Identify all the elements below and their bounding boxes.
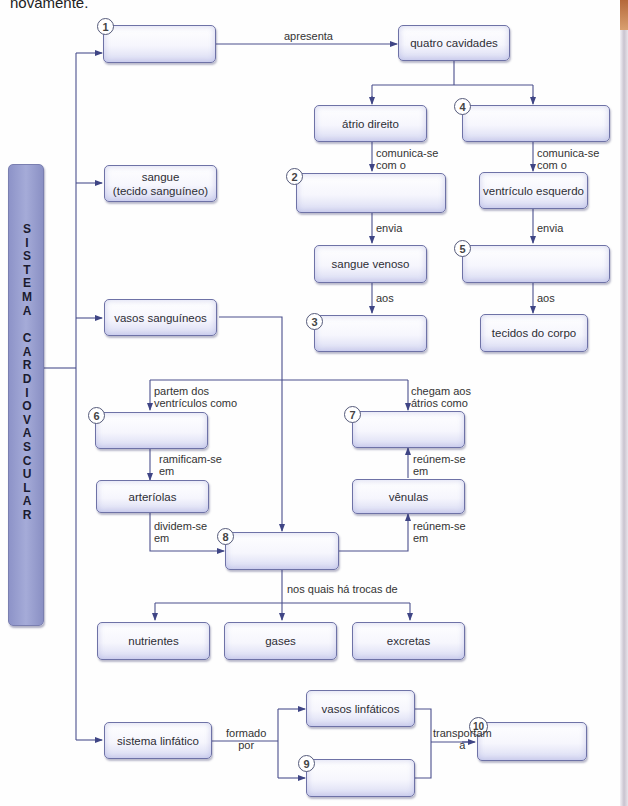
- label-ramificam: ramificam-se em: [159, 453, 222, 477]
- box-quatro-cavidades[interactable]: quatro cavidades: [398, 25, 510, 61]
- box-venulas[interactable]: vênulas: [352, 479, 465, 514]
- number-badge-5: 5: [454, 240, 471, 257]
- box-nutrientes[interactable]: nutrientes: [97, 622, 210, 660]
- box-label: nutrientes: [128, 634, 179, 648]
- quatro-split: [372, 60, 533, 103]
- box-label: átrio direito: [342, 117, 399, 131]
- number-badge-9: 9: [298, 755, 315, 772]
- side-title-line-2: C A R D I O V A S C U L A R: [9, 332, 45, 522]
- box-gases[interactable]: gases: [224, 622, 337, 660]
- blank-box-4[interactable]: [462, 105, 610, 142]
- box-atrio-direito[interactable]: átrio direito: [314, 105, 427, 142]
- box-label: arteríolas: [129, 490, 177, 504]
- blank-box-1[interactable]: [103, 25, 216, 63]
- label-apresenta: apresenta: [284, 30, 333, 42]
- blank-box-6[interactable]: [95, 412, 208, 449]
- number-badge-1: 1: [97, 18, 114, 35]
- label-dividem: dividem-se em: [154, 520, 207, 544]
- box-label: sistema linfático: [117, 734, 199, 748]
- box-sistema-linfatico[interactable]: sistema linfático: [104, 722, 212, 759]
- box-label: sangue venoso: [331, 257, 409, 271]
- vasos-to-b8: [219, 317, 282, 531]
- box-excretas[interactable]: excretas: [352, 622, 465, 660]
- blank-box-10[interactable]: [477, 722, 587, 761]
- label-partem: partem dos ventrículos como: [154, 385, 237, 409]
- label-chegam: chegam aos átrios como: [411, 385, 471, 409]
- label-envia-1: envia: [376, 222, 402, 234]
- side-title: S I S T E M AC A R D I O V A S C U L A R: [9, 223, 45, 522]
- number-badge-2: 2: [286, 168, 303, 185]
- number-badge-6: 6: [88, 407, 105, 424]
- box-label: vasos sanguíneos: [114, 311, 207, 325]
- blank-box-7[interactable]: [352, 411, 465, 448]
- blank-box-3[interactable]: [314, 315, 427, 352]
- label-aos-1: aos: [376, 292, 394, 304]
- label-envia-2: envia: [537, 222, 563, 234]
- number-badge-3: 3: [306, 313, 323, 330]
- box-tecidos-do-corpo[interactable]: tecidos do corpo: [480, 314, 588, 352]
- side-title-line-1: S I S T E M A: [9, 223, 45, 318]
- blank-box-5[interactable]: [462, 245, 610, 283]
- blank-box-9[interactable]: [306, 759, 415, 797]
- number-badge-4: 4: [454, 98, 471, 115]
- box-label: ventrículo esquerdo: [483, 184, 584, 198]
- box-arteriolas[interactable]: arteríolas: [96, 480, 209, 513]
- box-vasos-sanguineos[interactable]: vasos sanguíneos: [104, 299, 217, 336]
- blank-box-2[interactable]: [296, 173, 446, 213]
- box-label: quatro cavidades: [410, 36, 498, 50]
- box-label: sangue (tecido sanguíneo): [113, 170, 208, 198]
- label-reunem-2: reúnem-se em: [413, 520, 466, 544]
- box-label: vasos linfáticos: [322, 702, 400, 716]
- label-transportam: transportam a: [433, 727, 492, 751]
- number-badge-8: 8: [217, 528, 234, 545]
- box-label: gases: [265, 634, 296, 648]
- label-comunica-1: comunica-se com o: [376, 147, 438, 171]
- sistema-cardiovascular-panel: S I S T E M AC A R D I O V A S C U L A R: [8, 164, 44, 626]
- blank-box-8[interactable]: [225, 532, 339, 570]
- label-reunem-1: reúnem-se em: [413, 453, 466, 477]
- label-formado: formado por: [226, 727, 266, 751]
- label-trocas: nos quais há trocas de: [287, 583, 398, 595]
- label-comunica-2: comunica-se com o: [537, 147, 599, 171]
- box-sangue[interactable]: sangue (tecido sanguíneo): [104, 165, 217, 202]
- box-label: vênulas: [389, 490, 429, 504]
- box-vasos-linfaticos[interactable]: vasos linfáticos: [306, 690, 415, 727]
- box-ventriculo-esquerdo[interactable]: ventrículo esquerdo: [479, 172, 588, 209]
- label-aos-2: aos: [537, 292, 555, 304]
- box-label: tecidos do corpo: [492, 326, 576, 340]
- box-sangue-venoso[interactable]: sangue venoso: [314, 245, 427, 283]
- b8-to-venulas: [339, 514, 408, 551]
- box-label: excretas: [387, 634, 430, 648]
- number-badge-7: 7: [344, 406, 361, 423]
